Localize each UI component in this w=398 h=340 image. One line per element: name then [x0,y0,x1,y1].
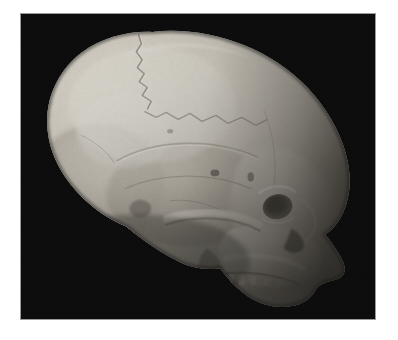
cranial-vault [21,14,375,319]
tooth [238,275,245,285]
bone-surface-texture [21,14,375,319]
skull-photograph [20,13,376,320]
foramen-pit-1 [210,170,219,177]
squamosal-suture [124,176,251,189]
tooth [264,278,269,286]
hairline-crack-2 [170,200,222,210]
orbit-cavity [264,195,287,215]
maxilla [219,225,322,287]
orbit [260,191,295,222]
mastoid-process [116,219,136,252]
hairline-crack-3 [264,109,275,188]
skull-image-canvas [21,14,375,319]
maxilla-body-highlight [226,256,304,269]
lambdoid-suture [144,111,267,125]
occipital-region [33,123,164,246]
supraorbital-rim [260,186,296,192]
bone-mottling [21,14,375,319]
infraorbital-rim [262,218,294,223]
nasal-bridge [299,199,315,243]
frontal-shadow-gradient [21,14,375,319]
foramen-pit-3 [167,129,173,133]
temporal-line-highlight [116,145,257,163]
tooth [227,274,234,284]
vault-sheen [116,43,263,66]
parietal-highlight [69,48,236,163]
alveolar-margin [220,273,300,284]
temporal-bone [107,143,270,246]
page-canvas [0,0,398,340]
external-auditory-meatus [129,200,151,218]
tooth [251,276,257,285]
zygomatic-arch-undershadow [166,218,259,230]
temporal-line [116,143,257,161]
inferior-shadow-gradient [21,14,375,319]
silhouette-feather [47,31,350,307]
zygomatic-arch [166,212,259,224]
coronal-suture [136,34,151,110]
nasal-aperture [284,229,304,253]
pterygoid-shadow [198,248,224,287]
hairline-crack-1 [81,135,115,163]
coronal-suture-highlight [138,34,153,110]
foramen-pit-2 [248,172,254,181]
photo-background [21,14,375,319]
inferior-rim-shadow [31,215,250,310]
teeth-group [227,274,280,288]
parietal-highlight-core [77,93,172,169]
skull-specimen [21,14,375,319]
photo-grain [21,14,375,319]
tooth [276,280,281,288]
facial-block [230,145,333,255]
